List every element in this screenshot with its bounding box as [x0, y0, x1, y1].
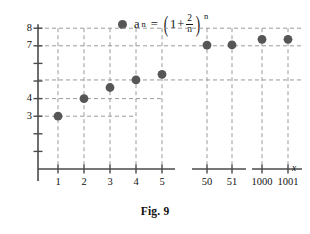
y-tick-label-3: 3	[18, 111, 32, 122]
figure-9-root: an = ( 1 + 2 n ) n 3478 12345505	[0, 0, 310, 234]
data-point-n-1001	[284, 35, 293, 44]
x-tick-label-5: 5	[145, 177, 179, 188]
ticks-group	[34, 28, 289, 173]
x-tick-label-1001: 1001	[271, 177, 305, 188]
x-axis-title: x	[292, 163, 296, 173]
data-point-n-1000	[258, 35, 267, 44]
y-tick-label-7: 7	[18, 40, 32, 51]
y-tick-label-8: 8	[18, 23, 32, 34]
plot-area: 3478 12345505110001001 x	[0, 0, 310, 234]
data-point-n-3	[106, 83, 115, 92]
data-point-n-1	[54, 112, 63, 121]
data-point-n-51	[228, 41, 237, 50]
data-point-n-5	[158, 70, 167, 79]
plot-svg	[0, 0, 310, 234]
data-point-n-2	[80, 94, 89, 103]
data-point-n-4	[132, 76, 141, 85]
data-point-n-50	[203, 41, 212, 50]
y-tick-label-4: 4	[18, 93, 32, 104]
data-points-group	[54, 35, 293, 121]
x-tick-label-51: 51	[215, 177, 249, 188]
figure-caption: Fig. 9	[0, 205, 310, 217]
gridlines-group	[38, 28, 302, 167]
